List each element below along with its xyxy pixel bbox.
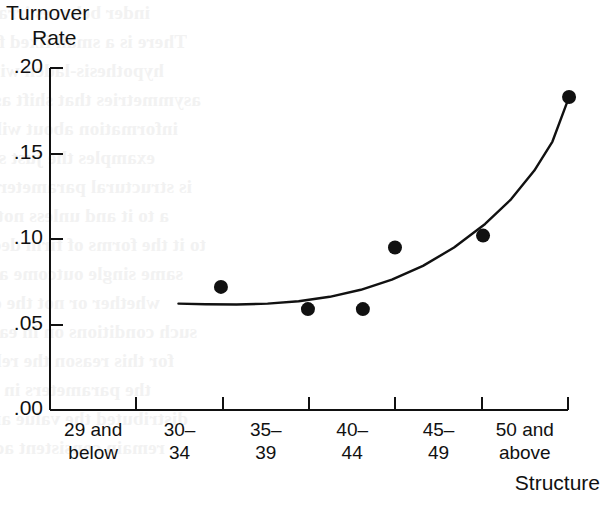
x-tick-label-line2: 39 — [223, 441, 309, 464]
x-tick-label-line2: 34 — [136, 441, 222, 464]
fit-curve-path — [178, 97, 569, 304]
axes-group — [50, 68, 568, 410]
data-point-marker — [476, 229, 490, 243]
data-point-marker — [562, 90, 576, 104]
x-tick-label: 40–44 — [309, 418, 395, 464]
y-tick-label: .05 — [0, 311, 43, 335]
data-points — [214, 90, 576, 316]
data-point-marker — [388, 241, 402, 255]
x-tick-label: 50 andabove — [482, 418, 568, 464]
x-tick-label-line1: 45– — [395, 418, 481, 441]
x-tick-label-line1: 50 and — [482, 418, 568, 441]
x-tick-label-line1: 40– — [309, 418, 395, 441]
x-tick-label-line2: above — [482, 441, 568, 464]
x-tick-label-line1: 30– — [136, 418, 222, 441]
y-tick-label: .10 — [0, 225, 43, 249]
x-tick-label: 30–34 — [136, 418, 222, 464]
x-axis-title: Structure — [515, 471, 600, 495]
data-point-marker — [214, 280, 228, 294]
y-axis-title-line1: Turnover — [6, 0, 89, 25]
x-tick-label-line1: 29 and — [50, 418, 136, 441]
x-tick-label-line1: 35– — [223, 418, 309, 441]
data-point-marker — [356, 302, 370, 316]
x-tick-label: 29 andbelow — [50, 418, 136, 464]
fit-curve — [178, 97, 569, 304]
chart-figure: Turnover Rate Structure .00.05.10.15.202… — [0, 0, 606, 510]
y-axis-title-line2: Rate — [6, 25, 89, 50]
x-tick-label-line2: 44 — [309, 441, 395, 464]
y-tick-label: .15 — [0, 140, 43, 164]
y-axis-title: Turnover Rate — [6, 0, 89, 50]
x-tick-label-line2: below — [50, 441, 136, 464]
y-tick-label: .20 — [0, 54, 43, 78]
y-tick-label: .00 — [0, 396, 43, 420]
x-tick-label-line2: 49 — [395, 441, 481, 464]
x-tick-label: 35–39 — [223, 418, 309, 464]
data-point-marker — [301, 302, 315, 316]
x-tick-label: 45–49 — [395, 418, 481, 464]
